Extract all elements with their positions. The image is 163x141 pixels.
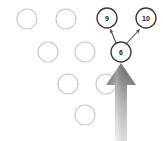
node-graph-svg: 9 10 6 (0, 0, 163, 141)
node-r2-c1[interactable] (38, 42, 58, 62)
edge-6-to-9 (111, 30, 117, 44)
node-r1-c2[interactable] (56, 9, 76, 29)
edges-group (111, 30, 140, 44)
node-6-label: 6 (119, 49, 123, 56)
node-r3-c1[interactable] (58, 74, 78, 94)
edge-6-to-10 (127, 30, 140, 44)
diagram-canvas: 9 10 6 (0, 0, 163, 141)
node-9-label: 9 (105, 15, 109, 22)
labeled-node-10[interactable]: 10 (136, 8, 156, 28)
labeled-node-9[interactable]: 9 (97, 8, 117, 28)
labeled-node-6[interactable]: 6 (111, 42, 131, 62)
node-r2-c2[interactable] (75, 42, 95, 62)
node-r4-c1[interactable] (75, 105, 95, 125)
node-10-label: 10 (142, 15, 150, 22)
node-r1-c1[interactable] (17, 9, 37, 29)
